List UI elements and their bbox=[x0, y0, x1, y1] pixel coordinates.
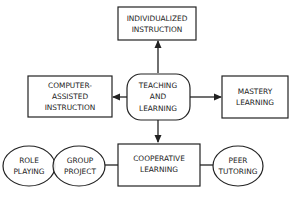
node-label-line: ROLE bbox=[19, 156, 39, 165]
node-role-playing: ROLE PLAYING bbox=[3, 146, 55, 186]
node-label-line: LEARNING bbox=[140, 165, 178, 174]
node-label-line: PLAYING bbox=[13, 167, 44, 176]
node-label-line: INDIVIDUALIZED bbox=[127, 14, 188, 23]
node-label-line: PROJECT bbox=[64, 167, 96, 176]
teaching-learning-diagram: INDIVIDUALIZED INSTRUCTION TEACHING AND … bbox=[0, 0, 292, 197]
node-label-line: TUTORING bbox=[218, 167, 258, 176]
node-peer-tutoring: PEER TUTORING bbox=[213, 146, 263, 186]
node-teaching-and-learning: TEACHING AND LEARNING bbox=[127, 74, 190, 120]
node-mastery-learning: MASTERY LEARNING bbox=[222, 76, 288, 118]
node-label-line: INSTRUCTION bbox=[132, 25, 183, 34]
node-label-line: MASTERY bbox=[238, 87, 273, 96]
node-label-line: COOPERATIVE bbox=[133, 154, 185, 163]
node-label-line: INSTRUCTION bbox=[45, 103, 96, 112]
node-computer-assisted-instruction: COMPUTER- ASSISTED INSTRUCTION bbox=[28, 76, 112, 117]
node-label-line: LEARNING bbox=[139, 104, 177, 113]
node-label-line: AND bbox=[150, 92, 167, 101]
node-label-line: COMPUTER- bbox=[48, 81, 92, 90]
node-cooperative-learning: COOPERATIVE LEARNING bbox=[118, 144, 200, 186]
node-label-line: PEER bbox=[229, 156, 248, 165]
node-individualized-instruction: INDIVIDUALIZED INSTRUCTION bbox=[118, 7, 196, 40]
node-label-line: GROUP bbox=[67, 156, 94, 165]
node-label-line: ASSISTED bbox=[52, 92, 88, 101]
node-group-project: GROUP PROJECT bbox=[53, 146, 105, 186]
node-label-line: LEARNING bbox=[236, 98, 274, 107]
node-label-line: TEACHING bbox=[138, 81, 178, 90]
